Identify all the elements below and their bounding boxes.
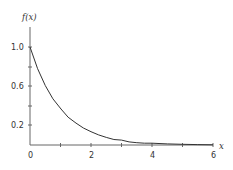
y-tick-label-0.2: 0.2 <box>11 121 24 130</box>
curve-f-x <box>30 47 213 145</box>
y-axis-label: f(x) <box>21 12 37 22</box>
x-tick-label-0: 0 <box>28 151 33 160</box>
y-tick-label-1.0: 1.0 <box>11 43 24 52</box>
chart: f(x) x 1.0 0.6 0.2 0 2 4 6 <box>0 0 233 170</box>
x-tick-label-4: 4 <box>150 151 155 160</box>
x-tick-label-2: 2 <box>89 151 94 160</box>
x-axis-label: x <box>219 141 224 151</box>
x-tick-label-6: 6 <box>211 151 216 160</box>
y-tick-label-0.6: 0.6 <box>11 82 24 91</box>
